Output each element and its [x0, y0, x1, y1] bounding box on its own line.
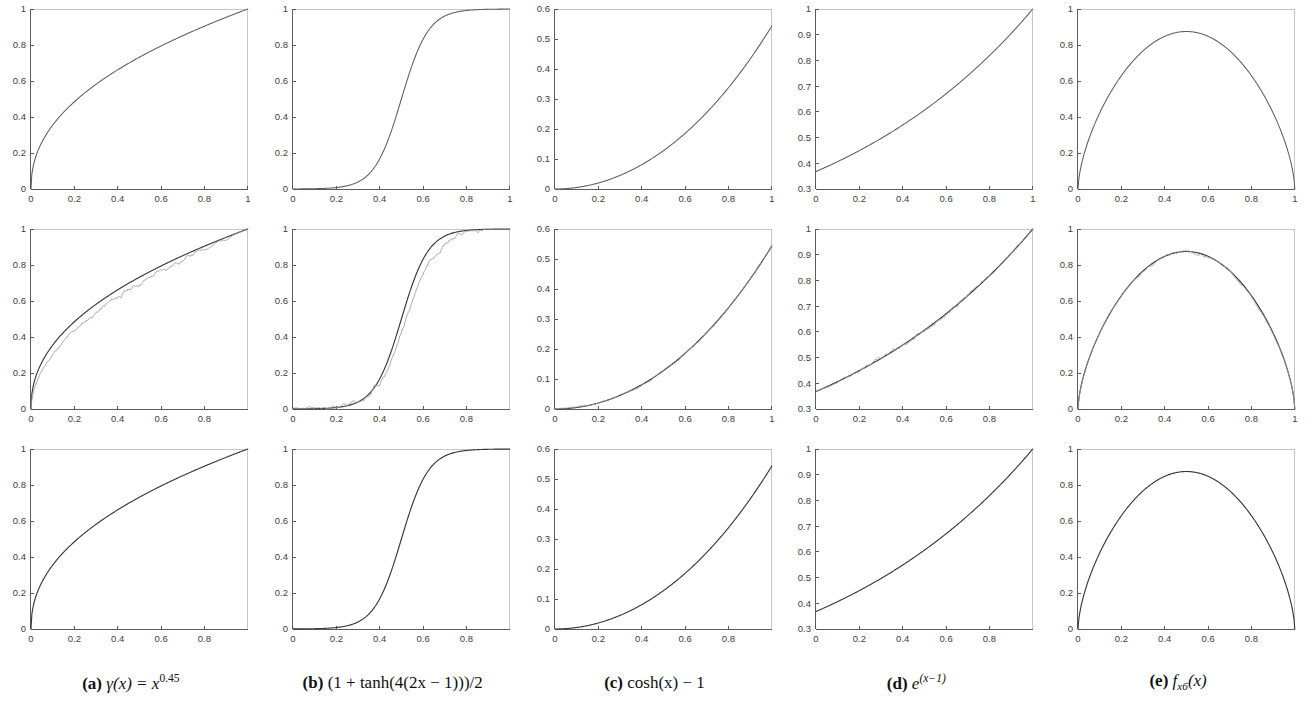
y-tick-label: 0.3: [798, 183, 811, 194]
x-tick-label: 0.2: [853, 633, 866, 644]
x-tick-label: 1: [769, 193, 774, 204]
curve-approx: [293, 449, 510, 629]
y-tick-label: 0.3: [536, 533, 549, 544]
y-tick-label: 0: [1068, 403, 1073, 414]
y-tick-label: 0.8: [13, 259, 26, 270]
y-tick-label: 0.6: [1060, 295, 1073, 306]
y-tick-label: 0.5: [798, 132, 811, 143]
plot-axes: [31, 9, 248, 189]
x-tick-label: 0.6: [678, 633, 691, 644]
caption-label-e: (e): [1149, 671, 1172, 690]
y-tick-label: 0.6: [798, 546, 811, 557]
y-tick-label: 0.2: [1060, 367, 1073, 378]
y-tick-label: 0.2: [536, 563, 549, 574]
x-tick-label: 0.2: [853, 413, 866, 424]
curve-approx: [31, 229, 248, 409]
curve-approx: [31, 449, 248, 629]
x-tick-label: 0: [552, 633, 557, 644]
x-tick-label: 0: [814, 413, 819, 424]
y-tick-label: 0.8: [275, 479, 288, 490]
caption-formula-e: fx6(x): [1173, 671, 1207, 690]
x-tick-label: 0.8: [1245, 413, 1258, 424]
caption-formula-b: (1 + tanh(4(2x − 1)))/2: [328, 673, 483, 692]
y-tick-label: 0.8: [13, 39, 26, 50]
y-tick-label: 0.6: [275, 295, 288, 306]
x-tick-label: 0.2: [1115, 193, 1128, 204]
y-tick-label: 0.9: [798, 249, 811, 260]
y-tick-label: 0.2: [13, 367, 26, 378]
x-tick-label: 0: [290, 633, 295, 644]
curve-main: [555, 26, 772, 189]
caption-formula-c: cosh(x) − 1: [627, 673, 705, 692]
y-tick-label: 0.8: [1060, 39, 1073, 50]
y-tick-label: 0.6: [536, 3, 549, 14]
plot-axes: [1078, 229, 1295, 409]
x-tick-label: 0.2: [591, 193, 604, 204]
plot-frame: [555, 9, 772, 189]
y-tick-label: 0.8: [275, 39, 288, 50]
subplot-e-top: 00.20.40.60.8100.20.40.60.81: [1047, 0, 1309, 220]
x-tick-label: 0.2: [330, 193, 343, 204]
caption-b: (b) (1 + tanh(4(2x − 1)))/2: [262, 674, 524, 691]
plot-frame: [1078, 449, 1295, 629]
x-tick-label: 0.6: [940, 193, 953, 204]
curve-noisy: [555, 246, 772, 409]
x-tick-label: 0.8: [1245, 193, 1258, 204]
y-tick-label: 0.8: [798, 55, 811, 66]
x-tick-label: 0.8: [983, 193, 996, 204]
curve-approx: [555, 466, 772, 629]
y-tick-label: 0.8: [1060, 259, 1073, 270]
x-tick-label: 0: [1076, 193, 1081, 204]
curve-noisy: [31, 229, 248, 409]
y-tick-label: 0.9: [798, 29, 811, 40]
x-tick-label: 0.8: [198, 413, 211, 424]
y-tick-label: 0: [1068, 623, 1073, 634]
y-tick-label: 0.5: [536, 473, 549, 484]
y-tick-label: 0.1: [536, 593, 549, 604]
x-tick-label: 0.4: [1158, 413, 1171, 424]
y-tick-label: 1: [806, 223, 811, 234]
x-tick-label: 1: [1031, 193, 1036, 204]
x-tick-label: 0.2: [330, 413, 343, 424]
x-tick-label: 0.2: [68, 193, 81, 204]
x-tick-label: 0: [28, 413, 33, 424]
curve-approx: [293, 229, 510, 409]
y-tick-label: 0.4: [13, 551, 26, 562]
x-tick-label: 0: [552, 193, 557, 204]
y-tick-label: 0.4: [275, 331, 288, 342]
caption-row: (a) γ(x) = x0.45(b) (1 + tanh(4(2x − 1))…: [0, 660, 1309, 705]
y-tick-label: 0.4: [13, 331, 26, 342]
y-tick-label: 0.4: [798, 158, 811, 169]
x-tick-label: 0: [28, 633, 33, 644]
figure-panel-grid: 00.20.40.60.8100.20.40.60.8100.20.40.60.…: [0, 0, 1309, 705]
curve-approx: [1078, 472, 1295, 630]
plot-axes: [816, 449, 1033, 629]
curve-noisy: [1078, 250, 1295, 409]
curve-approx: [555, 246, 772, 409]
y-tick-label: 0.4: [13, 111, 26, 122]
x-tick-label: 0.8: [198, 193, 211, 204]
x-tick-label: 0.4: [897, 633, 910, 644]
x-tick-label: 1: [769, 413, 774, 424]
y-tick-label: 0.4: [536, 503, 549, 514]
plot-frame: [1078, 229, 1295, 409]
y-tick-label: 0.6: [798, 106, 811, 117]
y-tick-label: 0.6: [13, 515, 26, 526]
y-tick-label: 0: [544, 623, 549, 634]
y-tick-label: 0.3: [798, 403, 811, 414]
x-tick-label: 0.6: [416, 193, 429, 204]
x-tick-label: 0.2: [330, 633, 343, 644]
y-tick-label: 1: [283, 223, 288, 234]
x-tick-label: 0.8: [198, 633, 211, 644]
y-tick-label: 0.5: [536, 33, 549, 44]
x-tick-label: 0.6: [1202, 193, 1215, 204]
y-tick-label: 0.4: [798, 378, 811, 389]
caption-label-d: (d): [887, 674, 912, 693]
caption-a: (a) γ(x) = x0.45: [0, 673, 262, 692]
plot-axes: [31, 229, 248, 409]
x-tick-label: 0: [290, 413, 295, 424]
plot-frame: [555, 449, 772, 629]
caption-c: (c) cosh(x) − 1: [524, 674, 786, 691]
y-tick-label: 0: [544, 183, 549, 194]
y-tick-label: 1: [1068, 223, 1073, 234]
